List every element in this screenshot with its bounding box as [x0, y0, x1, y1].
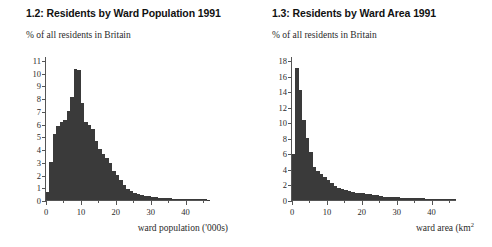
x-axis-tick-label: 30: [146, 207, 155, 217]
x-axis-caption-sup: 2: [471, 221, 474, 228]
y-axis-tick: [42, 188, 46, 189]
figure-ward-area: 1.3: Residents by Ward Area 1991 % of al…: [246, 0, 492, 247]
y-axis-tick: [288, 170, 292, 171]
x-axis-caption-text: ward area (km: [416, 223, 471, 233]
y-axis-tick-label: 6: [283, 149, 287, 159]
x-axis-minor-tick: [379, 201, 380, 203]
y-axis-tick: [42, 150, 46, 151]
y-axis-tick: [42, 163, 46, 164]
y-axis-tick-label: 18: [279, 56, 288, 66]
x-axis-tick: [46, 201, 47, 205]
y-axis-tick-label: 14: [279, 87, 288, 97]
y-axis-tick-label: 0: [37, 196, 41, 206]
x-axis-tick: [327, 201, 328, 205]
y-axis-tick: [288, 154, 292, 155]
y-axis-tick-label: 5: [37, 132, 41, 142]
x-axis-minor-tick: [133, 201, 134, 203]
x-axis-tick-label: 10: [323, 207, 332, 217]
y-axis-tick-label: 9: [37, 81, 41, 91]
x-axis-minor-tick: [98, 201, 99, 203]
y-axis-tick: [288, 139, 292, 140]
x-axis-tick: [186, 201, 187, 205]
plot-area: 024681012141618 010203040: [291, 60, 456, 201]
y-axis-tick-label: 11: [33, 56, 41, 66]
y-axis-tick: [42, 86, 46, 87]
x-axis-minor-tick: [309, 201, 310, 203]
histogram-bar: [453, 199, 456, 200]
y-axis-tick-label: 4: [283, 165, 287, 175]
y-axis-tick: [42, 99, 46, 100]
y-axis-tick-label: 16: [279, 72, 288, 82]
x-axis-tick: [151, 201, 152, 205]
y-axis-tick-label: 12: [279, 103, 288, 113]
x-axis-tick: [362, 201, 363, 205]
x-axis-minor-tick: [168, 201, 169, 203]
y-axis-tick-label: 6: [37, 120, 41, 130]
x-axis-tick: [116, 201, 117, 205]
y-axis-tick-label: 2: [37, 171, 41, 181]
y-axis-tick: [288, 92, 292, 93]
y-axis-tick: [42, 74, 46, 75]
x-axis-tick: [81, 201, 82, 205]
x-axis-tick: [292, 201, 293, 205]
y-axis-tick: [288, 77, 292, 78]
x-axis-tick-label: 40: [181, 207, 190, 217]
x-axis-caption: ward population ('000s): [138, 221, 228, 233]
figure-title: 1.2: Residents by Ward Population 1991: [26, 7, 221, 19]
y-axis-tick: [42, 112, 46, 113]
x-axis-tick-label: 20: [358, 207, 367, 217]
x-axis-tick-label: 30: [392, 207, 401, 217]
x-axis-minor-tick: [344, 201, 345, 203]
x-axis-minor-tick: [203, 201, 204, 203]
y-axis-tick: [42, 125, 46, 126]
x-axis-caption-text: ward population ('000s): [138, 223, 228, 233]
y-axis-tick-label: 8: [37, 94, 41, 104]
figure-ward-population: 1.2: Residents by Ward Population 1991 %…: [0, 0, 246, 247]
histogram-bar: [207, 200, 210, 201]
y-axis-tick-label: 3: [37, 158, 41, 168]
figure-title: 1.3: Residents by Ward Area 1991: [272, 7, 436, 19]
x-axis-caption: ward area (km2: [416, 221, 474, 233]
y-axis-tick-label: 10: [33, 69, 42, 79]
x-axis-minor-tick: [414, 201, 415, 203]
x-axis-minor-tick: [449, 201, 450, 203]
x-axis-tick: [397, 201, 398, 205]
figure-subtitle: % of all residents in Britain: [26, 30, 131, 40]
x-axis-tick-label: 20: [112, 207, 121, 217]
y-axis-tick-label: 8: [283, 134, 287, 144]
y-axis-tick: [288, 61, 292, 62]
y-axis-tick-label: 0: [283, 196, 287, 206]
x-axis-tick-label: 0: [44, 207, 48, 217]
y-axis-tick: [288, 185, 292, 186]
y-axis-tick: [288, 108, 292, 109]
x-axis-tick-label: 0: [290, 207, 294, 217]
figure-subtitle: % of all residents in Britain: [272, 30, 377, 40]
plot-area: 01234567891011 010203040: [45, 60, 210, 201]
y-axis-tick-label: 10: [279, 118, 288, 128]
x-axis-tick-label: 10: [77, 207, 86, 217]
y-axis-tick: [42, 61, 46, 62]
histogram-bars: [46, 60, 210, 200]
y-axis-tick: [42, 137, 46, 138]
y-axis-tick-label: 2: [283, 180, 287, 190]
y-axis-tick-label: 7: [37, 107, 41, 117]
x-axis-minor-tick: [63, 201, 64, 203]
y-axis-tick-label: 1: [37, 183, 41, 193]
x-axis-tick-label: 40: [427, 207, 436, 217]
figures-page: 1.2: Residents by Ward Population 1991 %…: [0, 0, 492, 247]
histogram-bars: [292, 60, 456, 200]
y-axis-tick: [288, 123, 292, 124]
y-axis-tick: [42, 176, 46, 177]
x-axis-tick: [432, 201, 433, 205]
y-axis-tick-label: 4: [37, 145, 41, 155]
